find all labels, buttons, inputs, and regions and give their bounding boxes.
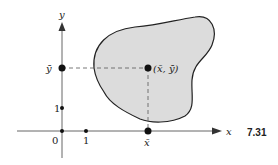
y-axis-label: y [58, 9, 65, 20]
x-axis-arrow-icon [212, 128, 222, 135]
y-bar-label: ȳ [45, 63, 52, 74]
origin-point [60, 129, 64, 133]
y-axis-arrow-icon [59, 22, 66, 31]
x-axis-label: x [226, 126, 232, 137]
centroid-diagram: y x ȳ x̄ (x̄, ȳ) 0 1 1 7.31 [0, 0, 278, 165]
y-tick-label: 1 [54, 103, 60, 114]
x-tick-1-point [84, 129, 88, 133]
figure-number: 7.31 [247, 127, 267, 138]
x-tick-label: 1 [83, 135, 89, 146]
y-tick-1-point [60, 106, 64, 110]
origin-label: 0 [52, 135, 58, 146]
x-bar-label: x̄ [144, 137, 150, 148]
centroid-point [145, 65, 152, 72]
centroid-label: (x̄, ȳ) [153, 63, 179, 74]
y-bar-point [59, 65, 66, 72]
x-bar-point [145, 128, 152, 135]
